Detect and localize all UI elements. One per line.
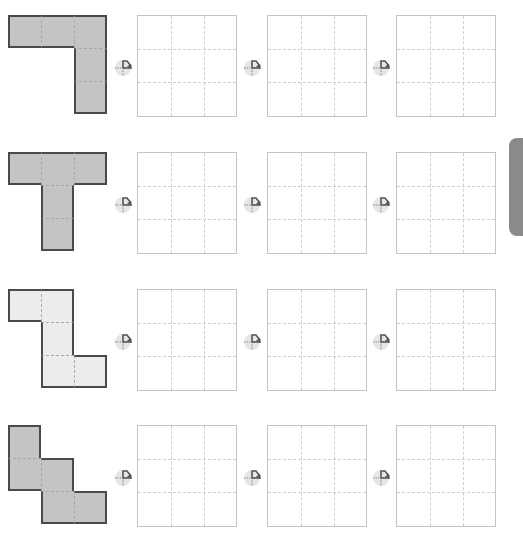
grid-line (204, 16, 205, 116)
answer-grid[interactable] (267, 289, 367, 391)
grid-line (463, 16, 464, 116)
grid-line (397, 82, 495, 83)
grid-line (268, 186, 366, 187)
shape-cell (41, 322, 74, 355)
grid-line (138, 459, 236, 460)
rotate-clockwise-icon (114, 57, 134, 77)
shape-cell (41, 458, 74, 491)
shape-z-shape (8, 289, 107, 388)
grid-line (397, 323, 495, 324)
answer-grid[interactable] (267, 425, 367, 527)
grid-line (204, 153, 205, 253)
grid-line (397, 49, 495, 50)
shape-cell (41, 491, 74, 524)
rotate-clockwise-icon (114, 467, 134, 487)
answer-grid[interactable] (396, 15, 496, 117)
grid-line (397, 459, 495, 460)
grid-line (138, 323, 236, 324)
shape-cell (41, 289, 74, 322)
rotate-clockwise-icon (243, 467, 263, 487)
shape-cell (41, 185, 74, 218)
shape-w-shape (8, 425, 107, 524)
answer-grid[interactable] (396, 425, 496, 527)
shape-cell (8, 15, 41, 48)
rotate-clockwise-icon (372, 57, 392, 77)
shape-cell (74, 81, 107, 114)
grid-line (268, 323, 366, 324)
shape-cell (74, 152, 107, 185)
grid-line (268, 356, 366, 357)
grid-line (301, 153, 302, 253)
shape-cell (41, 15, 74, 48)
shape-cell (41, 218, 74, 251)
rotate-clockwise-icon (243, 331, 263, 351)
grid-line (301, 16, 302, 116)
grid-line (204, 426, 205, 526)
answer-grid[interactable] (137, 289, 237, 391)
grid-line (268, 49, 366, 50)
answer-grid[interactable] (267, 152, 367, 254)
rotate-clockwise-icon (372, 194, 392, 214)
shape-cell (74, 491, 107, 524)
shape-l-shape (8, 15, 107, 114)
answer-grid[interactable] (137, 425, 237, 527)
shape-cell (74, 355, 107, 388)
grid-line (397, 219, 495, 220)
rotate-clockwise-icon (243, 194, 263, 214)
shape-cell (8, 289, 41, 322)
shape-cell (74, 48, 107, 81)
shape-t-shape (8, 152, 107, 251)
grid-line (397, 186, 495, 187)
shape-cell (8, 458, 41, 491)
grid-line (334, 290, 335, 390)
grid-line (171, 290, 172, 390)
grid-line (397, 492, 495, 493)
grid-line (138, 356, 236, 357)
rotate-clockwise-icon (114, 194, 134, 214)
grid-line (463, 426, 464, 526)
grid-line (138, 492, 236, 493)
shape-cell (41, 355, 74, 388)
grid-line (171, 426, 172, 526)
grid-line (334, 153, 335, 253)
grid-line (171, 16, 172, 116)
grid-line (268, 492, 366, 493)
shape-cell (8, 152, 41, 185)
grid-line (268, 459, 366, 460)
grid-line (268, 219, 366, 220)
grid-line (138, 82, 236, 83)
grid-line (138, 219, 236, 220)
rotate-clockwise-icon (114, 331, 134, 351)
shape-cell (8, 425, 41, 458)
shape-cell (41, 152, 74, 185)
grid-line (268, 82, 366, 83)
side-tab[interactable] (509, 138, 523, 236)
grid-line (334, 426, 335, 526)
grid-line (334, 16, 335, 116)
grid-line (301, 290, 302, 390)
grid-line (463, 153, 464, 253)
grid-line (204, 290, 205, 390)
shape-cell (74, 15, 107, 48)
grid-line (430, 426, 431, 526)
grid-line (138, 49, 236, 50)
rotate-clockwise-icon (372, 467, 392, 487)
answer-grid[interactable] (396, 152, 496, 254)
grid-line (171, 153, 172, 253)
rotate-clockwise-icon (243, 57, 263, 77)
grid-line (430, 153, 431, 253)
grid-line (430, 16, 431, 116)
grid-line (430, 290, 431, 390)
grid-line (301, 426, 302, 526)
answer-grid[interactable] (267, 15, 367, 117)
answer-grid[interactable] (137, 152, 237, 254)
grid-line (397, 356, 495, 357)
answer-grid[interactable] (137, 15, 237, 117)
answer-grid[interactable] (396, 289, 496, 391)
rotate-clockwise-icon (372, 331, 392, 351)
grid-line (138, 186, 236, 187)
grid-line (463, 290, 464, 390)
